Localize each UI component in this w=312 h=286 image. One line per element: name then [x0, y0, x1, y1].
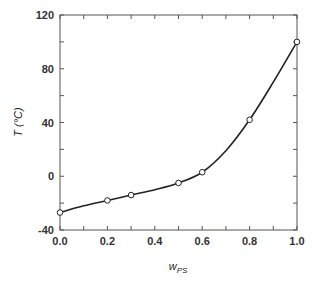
data-point [199, 169, 205, 175]
y-axis: -4004080120 [36, 9, 297, 236]
y-axis-label: T (°C) [12, 107, 24, 137]
data-points [57, 39, 300, 215]
x-tick-label: 0.8 [242, 235, 257, 247]
fit-curve [60, 42, 297, 213]
x-axis: 0.00.20.40.60.81.0 [52, 15, 304, 247]
x-tick-label: 0.0 [52, 235, 67, 247]
x-axis-label: wPS [169, 260, 188, 275]
data-point [105, 198, 111, 204]
data-point [176, 180, 182, 186]
data-point [294, 39, 300, 45]
x-axis-label-subscript: PS [177, 266, 188, 275]
data-point [247, 117, 253, 123]
data-point [128, 192, 134, 198]
x-tick-label: 1.0 [289, 235, 304, 247]
x-tick-label: 0.4 [147, 235, 163, 247]
x-tick-label: 0.2 [100, 235, 115, 247]
data-point [57, 210, 63, 216]
y-tick-label: 40 [42, 117, 54, 129]
x-tick-label: 0.6 [195, 235, 210, 247]
chart: -4004080120 0.00.20.40.60.81.0 T (°C) wP… [0, 0, 312, 286]
y-tick-label: 120 [36, 9, 54, 21]
y-tick-label: 80 [42, 63, 54, 75]
y-tick-label: 0 [48, 170, 54, 182]
plot-frame [60, 15, 297, 230]
